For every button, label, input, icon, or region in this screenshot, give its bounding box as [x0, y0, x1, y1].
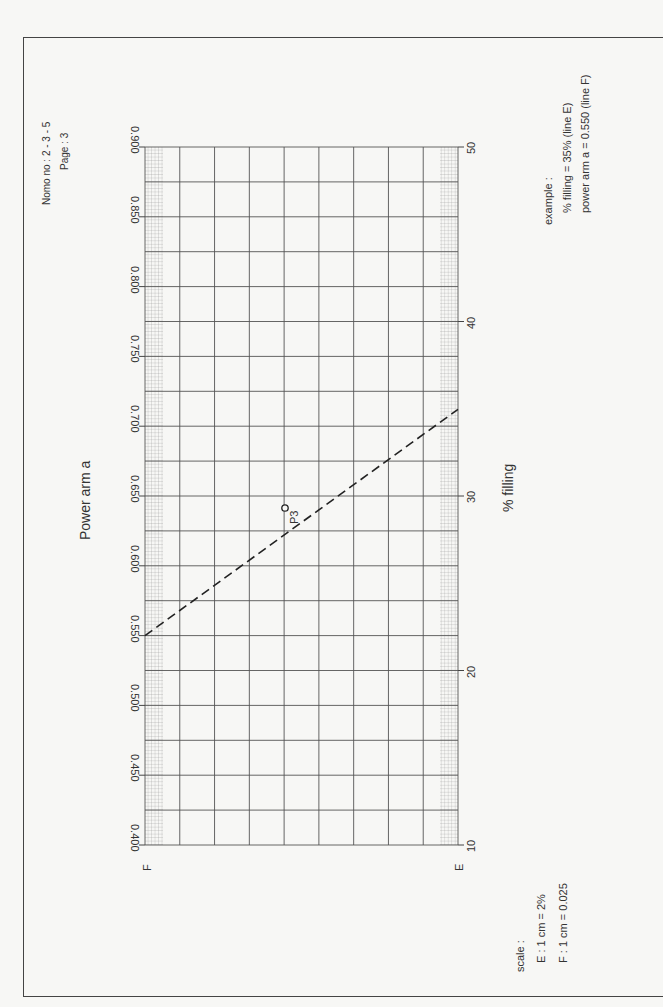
f-axis-tick-label: 0.850 [128, 196, 142, 224]
f-axis-tick-label: 0.750 [128, 335, 142, 363]
e-axis-tick-label: 40 [464, 316, 478, 328]
isopleth-line [145, 409, 458, 635]
scale-line-e: E : 1 cm = 2% [534, 894, 548, 963]
f-axis-tick-label: 0.650 [128, 475, 142, 503]
page-number-label: Page : 3 [58, 133, 71, 170]
e-axis-tick-label: 10 [464, 840, 478, 852]
f-axis-tick-label: 0.700 [128, 405, 142, 433]
e-axis-title: % filling [500, 464, 516, 512]
e-axis-tick-label: 30 [464, 491, 478, 503]
example-line-f: power arm a = 0.550 (line F) [578, 75, 592, 213]
pivot-point-label: P3 [287, 511, 301, 524]
nomo-number-label: Nomo no : 2 - 3 - 5 [40, 122, 53, 205]
f-axis-tick-label: 0.450 [128, 754, 142, 782]
f-axis-tick-label: 0.550 [128, 615, 142, 643]
example-title: example : [541, 177, 555, 225]
f-axis-tick-label: 0.600 [128, 545, 142, 573]
f-axis-tick-label: 0.400 [128, 824, 142, 852]
scale-line-f: F : 1 cm = 0.025 [556, 883, 570, 963]
example-line-e: % filling = 35% (line E) [560, 103, 574, 213]
f-axis-tick-label: 0.500 [128, 684, 142, 712]
e-axis-letter: E [452, 864, 466, 871]
f-axis-tick-label: 0.900 [128, 126, 142, 154]
f-axis-letter: F [140, 864, 154, 871]
f-axis-tick-label: 0.800 [128, 266, 142, 294]
e-axis-tick-label: 20 [464, 665, 478, 677]
e-axis-tick-label: 50 [464, 142, 478, 154]
scale-title: scale : [513, 940, 527, 972]
f-axis-title: Power arm a [77, 461, 93, 540]
